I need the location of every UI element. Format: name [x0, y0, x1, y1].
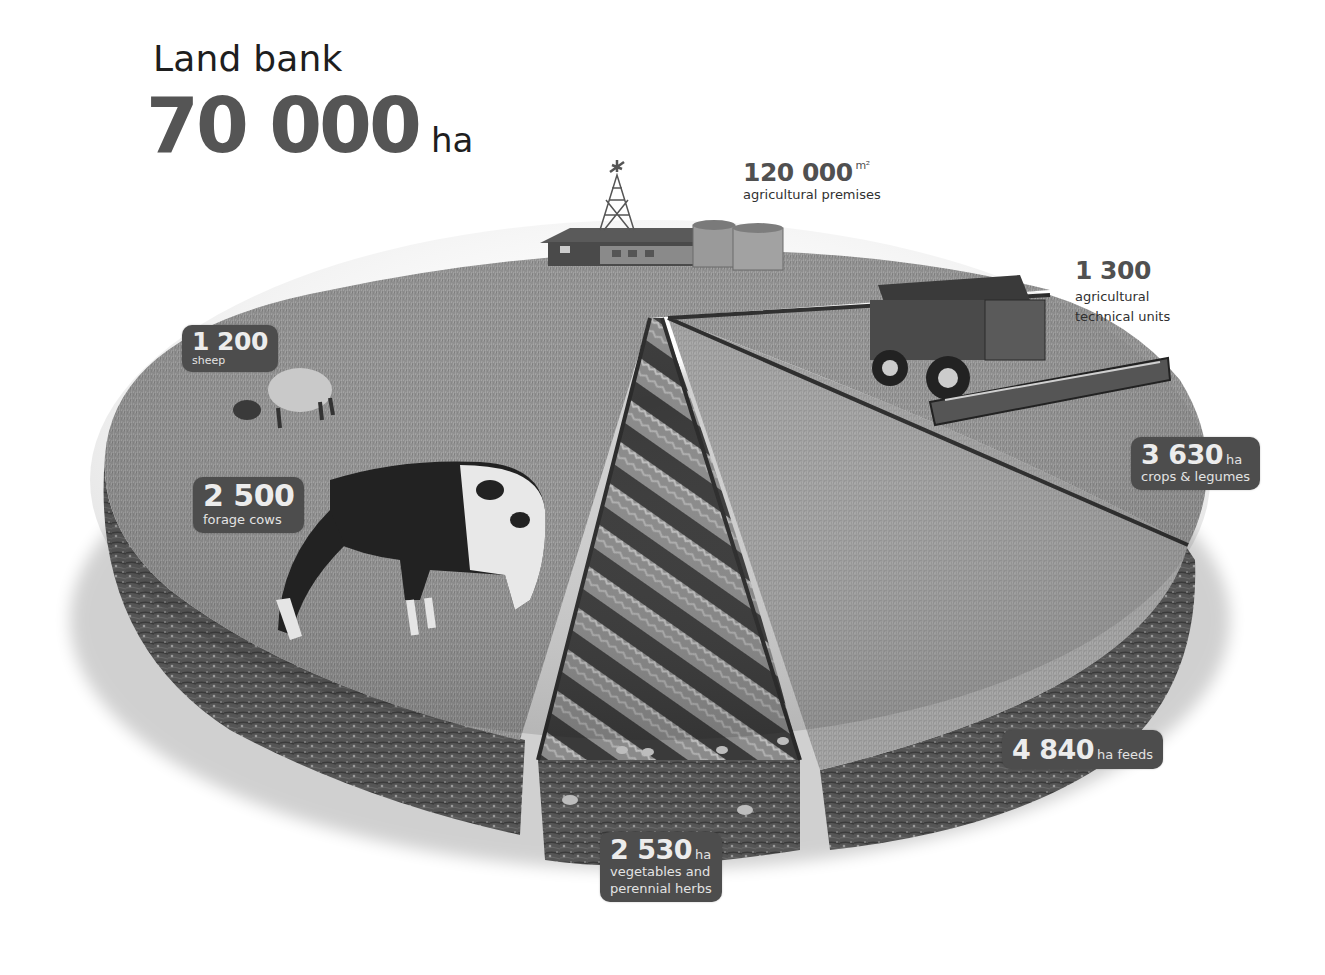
- vegetables-label-line1: vegetables and: [610, 863, 712, 880]
- crops-area: 3 630: [1141, 439, 1223, 470]
- crops-tag: 3 630ha crops & legumes: [1131, 437, 1260, 490]
- premises-value: 120 000: [743, 158, 853, 187]
- premises-description: agricultural premises: [743, 185, 881, 205]
- vegetables-area: 2 530: [610, 834, 692, 865]
- sheep-tag: 1 200 sheep: [182, 325, 278, 372]
- crops-unit: ha: [1226, 452, 1242, 467]
- sheep-count: 1 200: [192, 329, 268, 354]
- farm-buildings: [540, 228, 700, 266]
- vegetables-label-line2: perennial herbs: [610, 880, 712, 897]
- machinery-callout: 1 300 agricultural technical units: [1075, 258, 1170, 327]
- feeds-unit: ha feeds: [1097, 747, 1153, 762]
- feeds-tag: 4 840ha feeds: [1002, 730, 1163, 769]
- premises-callout: 120 000m² agricultural premises: [743, 160, 881, 205]
- cows-count: 2 500: [203, 481, 294, 511]
- feeds-area: 4 840: [1012, 734, 1094, 765]
- vegetables-unit: ha: [695, 847, 711, 862]
- machinery-description-line2: technical units: [1075, 307, 1170, 327]
- machinery-value: 1 300: [1075, 258, 1170, 283]
- premises-unit: m²: [856, 159, 870, 172]
- grain-silos: [693, 220, 783, 270]
- machinery-description-line1: agricultural: [1075, 287, 1170, 307]
- windmill: [600, 160, 634, 230]
- vegetables-tag: 2 530ha vegetables and perennial herbs: [600, 832, 722, 902]
- cows-label: forage cows: [203, 511, 294, 528]
- crops-label: crops & legumes: [1141, 468, 1250, 485]
- cows-tag: 2 500 forage cows: [193, 477, 304, 533]
